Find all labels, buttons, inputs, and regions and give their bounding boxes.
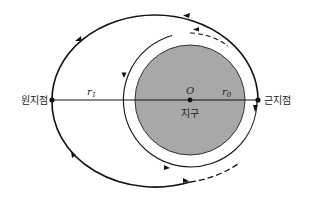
orbit-diagram: 원지점 근지점 지구 O r1 r0	[0, 0, 309, 201]
arrow-icon	[164, 165, 170, 170]
arrow-icon	[193, 27, 199, 32]
arrow-icon	[75, 36, 82, 41]
r1-label: r1	[87, 86, 96, 99]
perigee-point	[255, 97, 260, 102]
earth-label: 지구	[181, 108, 199, 119]
arrow-icon	[183, 13, 190, 18]
apogee-label: 원지점	[21, 95, 48, 106]
arrow-icon	[253, 105, 258, 112]
arrow-icon	[122, 73, 127, 79]
r0-subscript: 0	[227, 91, 232, 99]
perigee-label: 근지점	[264, 95, 291, 106]
apogee-point	[49, 97, 54, 102]
center-label: O	[186, 85, 194, 96]
r1-subscript: 1	[92, 91, 96, 99]
earth-center-point	[188, 98, 193, 103]
